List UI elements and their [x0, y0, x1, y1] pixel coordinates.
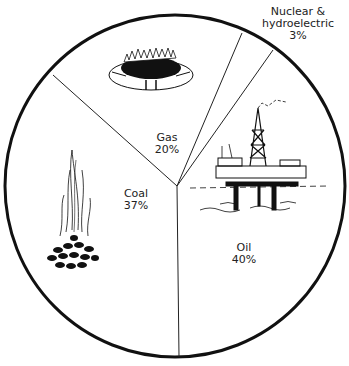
gas-burner-icon — [109, 48, 193, 90]
coal-fire-icon — [47, 150, 99, 269]
label-oil: Oil 40% — [232, 242, 256, 266]
pie-chart — [0, 0, 349, 366]
label-nuclear-hydroelectric: Nuclear & hydroelectric 3% — [262, 6, 334, 42]
label-oil-value: 40% — [232, 254, 256, 266]
label-nuclear-value: 3% — [262, 30, 334, 42]
divider-oil-coal — [177, 186, 179, 357]
label-coal-value: 37% — [124, 200, 148, 212]
label-gas: Gas 20% — [155, 132, 179, 156]
divider-gas-nuclear — [177, 33, 242, 186]
label-gas-value: 20% — [155, 144, 179, 156]
oil-rig-icon — [190, 100, 330, 212]
label-coal: Coal 37% — [124, 188, 148, 212]
